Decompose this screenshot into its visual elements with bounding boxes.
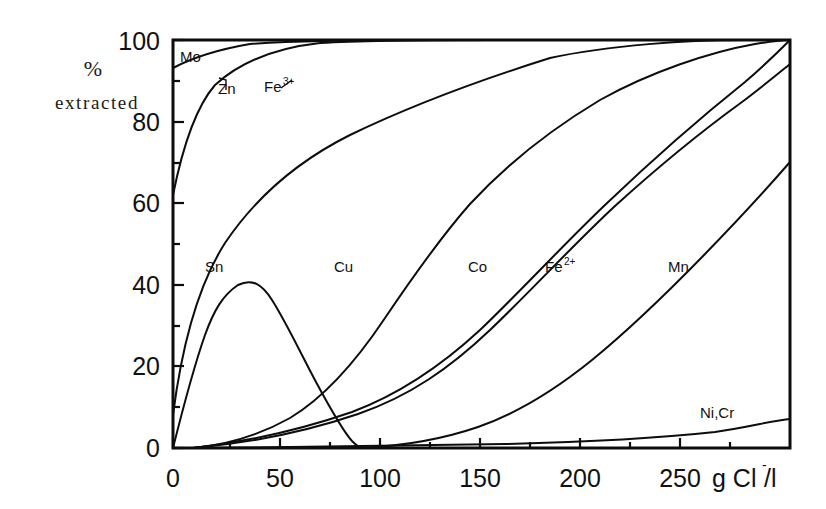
curve-label-mo: Mo (180, 48, 201, 65)
curve-label-fe2: Fe (545, 258, 563, 275)
y-tick-label-60: 60 (132, 189, 160, 217)
y-tick-label-40: 40 (132, 271, 160, 299)
curve-label-sn: Sn (205, 258, 223, 275)
curve-label-mn: Mn (668, 258, 689, 275)
x-tick-label-250: 250 (659, 464, 701, 492)
y-axis-label-percent: % (84, 56, 102, 81)
curve-label-zn: Zn (218, 80, 236, 97)
curve-label-fe3-superscript: 3+ (283, 76, 295, 87)
x-tick-label-150: 150 (459, 464, 501, 492)
x-axis-unit-tail: /l (764, 464, 777, 492)
curve-zn (173, 40, 790, 195)
curve-label-fe2-superscript: 2+ (564, 256, 576, 267)
x-tick-label-0: 0 (166, 464, 180, 492)
curve-nicr (193, 419, 790, 448)
curve-fe2 (193, 64, 790, 448)
curve-sn (173, 282, 362, 448)
x-tick-label-50: 50 (266, 464, 294, 492)
y-axis-label-extracted: extracted (55, 92, 139, 113)
curve-label-co: Co (468, 258, 487, 275)
curve-label-fe3: Fe (264, 78, 282, 95)
plot-frame (173, 40, 790, 448)
curve-label-nicr: Ni,Cr (700, 404, 734, 421)
y-tick-label-0: 0 (146, 434, 160, 462)
extraction-curve-chart: 100 80 60 40 20 0 0 50 100 150 200 250 g… (0, 0, 826, 509)
x-tick-label-200: 200 (559, 464, 601, 492)
x-axis-unit-main: g Cl (712, 464, 756, 492)
x-tick-label-100: 100 (359, 464, 401, 492)
curve-co (193, 40, 790, 448)
curve-mo (173, 40, 790, 68)
curve-fe3 (173, 40, 790, 415)
curve-label-cu: Cu (334, 258, 353, 275)
curve-cu (193, 40, 790, 448)
y-tick-label-20: 20 (132, 352, 160, 380)
y-tick-label-100: 100 (118, 27, 160, 55)
chart-figure: 100 80 60 40 20 0 0 50 100 150 200 250 g… (0, 0, 826, 509)
